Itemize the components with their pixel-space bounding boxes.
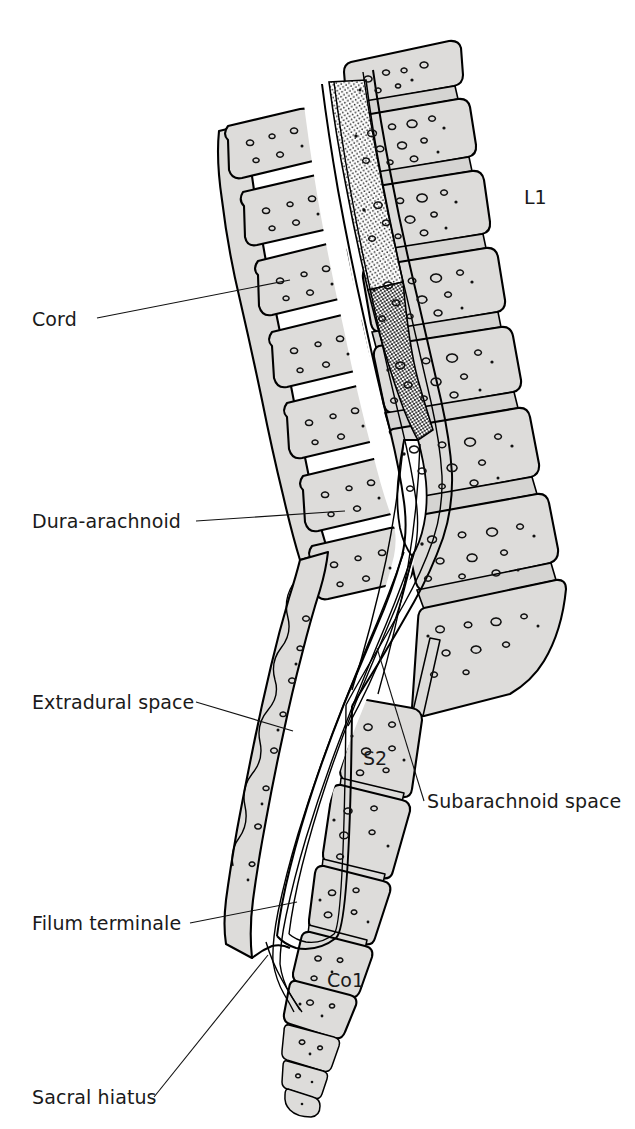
label-sacral-hiatus: Sacral hiatus xyxy=(32,1086,157,1108)
spinal-column-diagram: Cord Dura-arachnoid Extradural space Fil… xyxy=(0,0,635,1129)
label-s2: S2 xyxy=(363,747,387,769)
label-l1: L1 xyxy=(524,186,547,208)
label-extradural-space: Extradural space xyxy=(32,691,194,713)
label-dura-arachnoid: Dura-arachnoid xyxy=(32,510,181,532)
leader-line-sacral-hiatus xyxy=(154,955,268,1097)
label-cord: Cord xyxy=(32,308,77,330)
label-filum-terminale: Filum terminale xyxy=(32,912,181,934)
label-subarachnoid-space: Subarachnoid space xyxy=(427,790,621,812)
label-co1: Co1 xyxy=(327,969,364,991)
figure-canvas: Cord Dura-arachnoid Extradural space Fil… xyxy=(0,0,635,1129)
